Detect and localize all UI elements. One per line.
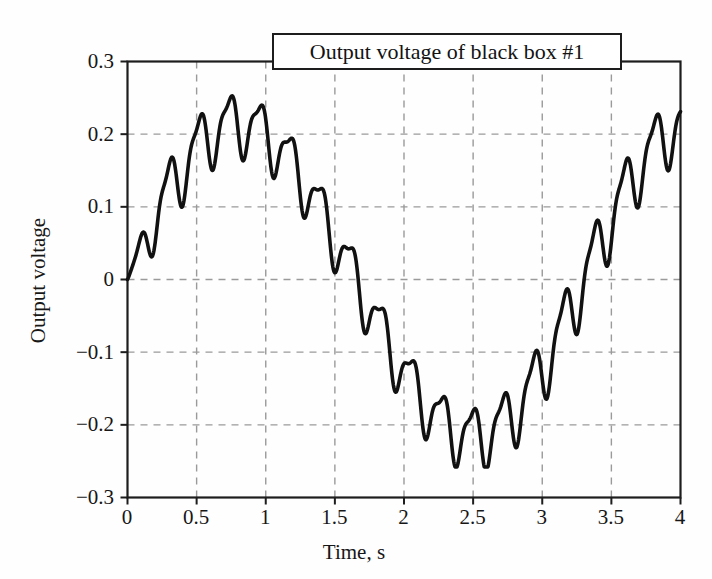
x-tick-label: 0 bbox=[122, 505, 133, 530]
x-tick-label: 4 bbox=[675, 505, 686, 530]
y-tick-label: 0.3 bbox=[48, 49, 114, 74]
y-tick-label: −0.2 bbox=[48, 412, 114, 437]
x-tick-label: 2.5 bbox=[459, 505, 485, 530]
y-tick-label: −0.3 bbox=[48, 485, 114, 510]
x-tick-label: 2 bbox=[398, 505, 409, 530]
y-tick-label: −0.1 bbox=[48, 339, 114, 364]
x-tick-label: 1.5 bbox=[321, 505, 347, 530]
grid-lines bbox=[128, 62, 681, 498]
x-tick-label: 3.5 bbox=[598, 505, 624, 530]
x-tick-label: 0.5 bbox=[183, 505, 209, 530]
y-tick-label: 0 bbox=[48, 267, 114, 292]
y-tick-label: 0.1 bbox=[48, 194, 114, 219]
x-tick-label: 3 bbox=[537, 505, 548, 530]
x-axis-title: Time, s bbox=[264, 540, 444, 565]
figure-canvas: 0.3 0.2 0.1 0 −0.1 −0.2 −0.3 0 0.5 1 1.5… bbox=[0, 0, 712, 579]
chart-title-text: Output voltage of black box #1 bbox=[300, 39, 594, 65]
data-series-line bbox=[128, 96, 681, 467]
chart-title-box: Output voltage of black box #1 bbox=[272, 33, 622, 70]
x-tick-label: 1 bbox=[260, 505, 271, 530]
y-axis-title: Output voltage bbox=[26, 166, 51, 396]
y-tick-label: 0.2 bbox=[48, 121, 114, 146]
